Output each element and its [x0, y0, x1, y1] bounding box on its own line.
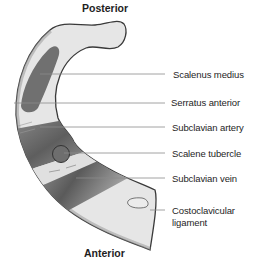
- label-scalenus-medius: Scalenus medius: [173, 69, 244, 80]
- label-serratus-anterior: Serratus anterior: [171, 97, 240, 108]
- first-rib-diagram: Posterior Anterior Scalenus medius Serra…: [0, 0, 253, 265]
- label-scalene-tubercle: Scalene tubercle: [172, 148, 241, 159]
- label-subclavian-artery: Subclavian artery: [172, 122, 244, 133]
- label-subclavian-vein: Subclavian vein: [172, 173, 237, 184]
- posterior-label: Posterior: [82, 2, 128, 14]
- label-costoclavicular-ligament-line2: ligament: [172, 217, 207, 228]
- costoclavicular-ligament-area: [128, 198, 148, 208]
- anterior-label: Anterior: [84, 247, 125, 259]
- label-costoclavicular-ligament-line1: Costoclavicular: [172, 205, 235, 216]
- scalene-tubercle-shape: [53, 146, 70, 163]
